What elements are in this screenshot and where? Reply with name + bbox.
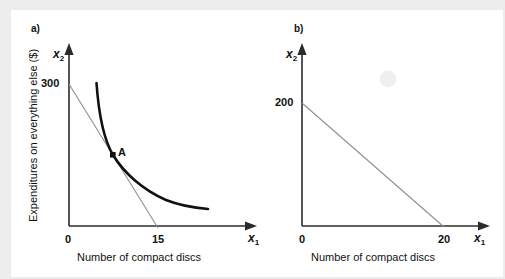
figure-container: a) x2 300 0 15 x1 A Number of compact di… (0, 0, 505, 279)
panel-b-watermark-circle (380, 71, 397, 88)
panel-a-point-a-marker (110, 152, 116, 158)
figure-card (11, 10, 503, 277)
figure-canvas (0, 0, 505, 279)
